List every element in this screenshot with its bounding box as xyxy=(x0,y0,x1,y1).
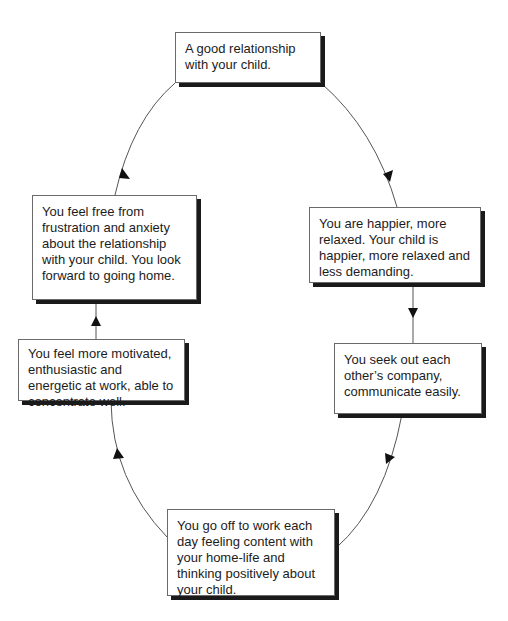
node-more-motivated: You feel more motivated, enthusiastic an… xyxy=(18,339,185,401)
arrow-head-icon xyxy=(119,168,130,179)
arrow-head-icon xyxy=(113,448,124,459)
node-text: You seek out each other’s company, commu… xyxy=(344,352,461,399)
node-text: You feel more motivated, enthusiastic an… xyxy=(28,346,173,409)
arrow-head-icon xyxy=(408,308,418,318)
node-go-off-to-work: You go off to work each day feeling cont… xyxy=(167,509,335,596)
node-text: A good relationship with your child. xyxy=(185,41,296,72)
node-good-relationship: A good relationship with your child. xyxy=(175,32,321,83)
node-happier-relaxed: You are happier, more relaxed. Your chil… xyxy=(309,207,481,283)
node-free-from-frustration: You feel free from frustration and anxie… xyxy=(32,195,197,300)
node-seek-company: You seek out each other’s company, commu… xyxy=(334,343,482,414)
node-text: You are happier, more relaxed. Your chil… xyxy=(319,216,470,279)
edge-lower-right-to-bottom xyxy=(336,414,402,548)
edge-bottom-to-lower-left xyxy=(111,401,167,537)
node-text: You go off to work each day feeling cont… xyxy=(177,518,315,597)
edge-top-to-upper-right xyxy=(321,83,397,207)
node-text: You feel free from frustration and anxie… xyxy=(42,204,181,283)
arrow-head-icon xyxy=(91,316,101,326)
